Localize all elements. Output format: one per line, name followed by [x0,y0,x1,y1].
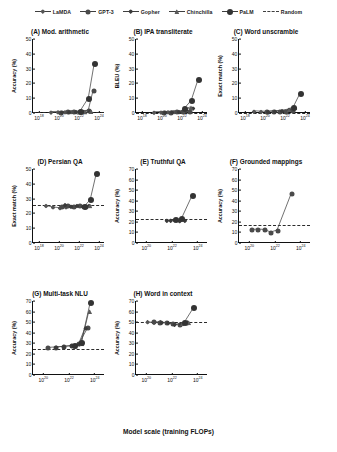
legend-marker-icon [227,9,233,15]
y-tick-label: 10 [26,95,32,101]
x-tick-label: 1024 [300,114,310,121]
data-point-palm [72,343,78,349]
y-axis-label-text: Accuracy (%) [11,321,17,355]
x-tick-label: 1020 [54,244,64,251]
data-point-gpt-3 [249,228,254,233]
legend-item-gpt-3: GPT-3 [80,8,114,15]
y-tick-label: 50 [232,36,238,42]
chart-panel-a: (A) Mod. arithmeticAccuracy (%)010203040… [10,28,110,128]
legend-swatch [80,8,96,15]
legend-swatch [263,8,279,15]
legend-item-chinchilla: Chinchilla [169,8,213,15]
y-tick-label: 40 [129,51,135,57]
series-lines [136,301,207,374]
x-tick-label: 1022 [280,114,290,121]
x-tick-label: 1020 [39,376,49,383]
y-tick-label: 30 [26,66,32,72]
y-tick-label: 0 [29,240,32,246]
y-tick-label: 50 [26,319,32,325]
panel-title: (C) Word unscramble [216,28,316,35]
data-point-palm [86,96,92,102]
y-tick-label: 60 [129,177,135,183]
data-point-palm [196,77,202,83]
y-axis-label: Exact match (%) [215,39,225,113]
x-tick-label: 1020 [142,244,152,251]
panel-title: (E) Truthful QA [113,158,213,165]
legend-marker-icon [40,9,45,14]
y-axis-label-text: BLEU (%) [114,64,120,89]
data-point-gpt-3 [289,192,294,197]
legend-item-gopher: Gopher [123,8,160,15]
legend-label: Random [281,9,302,15]
y-tick-label: 0 [132,372,135,378]
chart-panel-d: (D) Persian QAExact match (%)01020304050… [10,158,110,258]
chart-panel-h: (H) Word in contextAccuracy (%)010203040… [113,290,213,390]
legend-marker-icon [128,9,133,14]
y-axis-label: Accuracy (%) [112,301,122,375]
x-tick-label: 1024 [193,244,203,251]
y-tick-label: 40 [26,330,32,336]
x-tick-label: 1024 [90,376,100,383]
y-tick-label: 70 [129,166,135,172]
y-tick-label: 0 [29,372,32,378]
y-tick-label: 10 [26,225,32,231]
x-tick-label: 1024 [94,244,104,251]
panel-title: (G) Multi-task NLU [10,290,110,297]
x-tick-label: 1022 [74,114,84,121]
x-tick-label: 1020 [54,114,64,121]
y-tick-label: 20 [26,351,32,357]
x-tick-label: 1024 [94,114,104,121]
y-tick-label: 50 [26,36,32,42]
y-tick-label: 70 [129,298,135,304]
y-axis-label-text: Exact match (%) [217,55,223,97]
x-tick-label: 1022 [270,244,280,251]
plot-area: 010203040506070102010221024 [135,169,207,243]
data-point-palm [298,91,304,97]
series-line-palm [80,64,94,111]
legend-label: GPT-3 [98,9,114,15]
y-tick-label: 40 [26,51,32,57]
series-lines [136,169,207,242]
y-tick-label: 10 [26,361,32,367]
y-tick-label: 20 [232,219,238,225]
y-tick-label: 0 [235,110,238,116]
legend-label: LaMDA [53,9,71,15]
y-tick-label: 0 [235,240,238,246]
y-axis-label-text: Exact match (%) [11,185,17,227]
plot-area: 010203040501018102010221024 [32,39,104,113]
x-tick-label: 1018 [34,244,44,251]
data-point-gpt-3 [275,228,280,233]
y-tick-label: 40 [232,198,238,204]
figure-legend: LaMDAGPT-3GopherChinchillaPaLMRandom [0,8,337,15]
y-tick-label: 70 [232,166,238,172]
chart-panel-g: (G) Multi-task NLUAccuracy (%)0102030405… [10,290,110,390]
legend-label: PaLM [240,9,254,15]
y-tick-label: 0 [132,240,135,246]
y-axis-label: Exact match (%) [9,169,19,243]
data-point-palm [88,197,94,203]
y-tick-label: 0 [132,110,135,116]
plot-area: 010203040501018102010221024 [238,39,310,113]
y-tick-label: 10 [232,95,238,101]
x-tick-label: 1022 [177,114,187,121]
y-tick-label: 10 [129,229,135,235]
data-point-palm [291,105,297,111]
data-point-gpt-3 [256,227,261,232]
y-tick-label: 40 [129,330,135,336]
y-tick-label: 30 [232,208,238,214]
y-tick-label: 50 [129,319,135,325]
data-point-palm [190,193,196,199]
data-point-palm [88,300,94,306]
y-tick-label: 60 [232,177,238,183]
y-axis-label: Accuracy (%) [9,39,19,113]
y-tick-label: 50 [129,36,135,42]
panel-title: (F) Grounded mappings [216,158,316,165]
y-tick-label: 70 [26,298,32,304]
y-tick-label: 20 [129,80,135,86]
y-tick-label: 60 [129,309,135,315]
data-point-gpt-3 [92,88,97,93]
data-point-gpt-3 [269,230,274,235]
y-axis-label-text: Accuracy (%) [114,189,120,223]
x-tick-label: 1020 [260,114,270,121]
y-axis-label-text: Accuracy (%) [217,189,223,223]
